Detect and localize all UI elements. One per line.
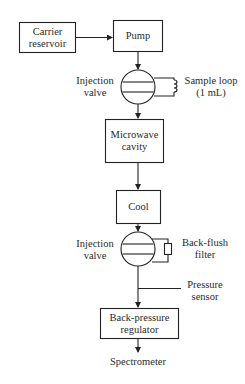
cool-node: Cool bbox=[117, 191, 160, 223]
sample-loop-icon bbox=[154, 78, 177, 96]
injection-valve-1-label: Injection valve bbox=[70, 75, 120, 99]
injection-valve-2-line1: Injection bbox=[70, 238, 120, 250]
injection-valve-1-line1: Injection bbox=[70, 75, 120, 87]
back-flush-filter-label: Back-flush filter bbox=[176, 237, 234, 261]
spectrometer-text: Spectrometer bbox=[110, 356, 166, 367]
injection-valve-2-label: Injection valve bbox=[70, 238, 120, 262]
sample-loop-label: Sample loop (1 mL) bbox=[180, 75, 242, 99]
bpr-label-1: Back-pressure bbox=[109, 312, 169, 324]
injection-valve-1-icon bbox=[121, 70, 155, 104]
microwave-cavity-node: Microwave cavity bbox=[106, 120, 163, 162]
sample-loop-line1: Sample loop bbox=[180, 75, 242, 87]
carrier-reservoir-node: Carrier reservoir bbox=[20, 23, 75, 52]
microwave-cavity-label-2: cavity bbox=[122, 141, 148, 153]
pressure-sensor-line2: sensor bbox=[180, 291, 230, 303]
bpr-label-2: regulator bbox=[121, 324, 159, 336]
back-pressure-regulator-node: Back-pressure regulator bbox=[101, 309, 178, 338]
injection-valve-1-line2: valve bbox=[70, 87, 120, 99]
back-flush-filter-line2: filter bbox=[176, 249, 234, 261]
microwave-cavity-label-1: Microwave bbox=[111, 129, 159, 141]
cool-label: Cool bbox=[128, 201, 148, 213]
back-flush-filter-line1: Back-flush bbox=[176, 237, 234, 249]
sample-loop-line2: (1 mL) bbox=[180, 87, 242, 99]
carrier-reservoir-label-2: reservoir bbox=[29, 38, 66, 50]
spectrometer-label: Spectrometer bbox=[98, 356, 178, 368]
injection-valve-2-line2: valve bbox=[70, 250, 120, 262]
pump-node: Pump bbox=[114, 21, 162, 51]
carrier-reservoir-label-1: Carrier bbox=[33, 26, 63, 38]
pressure-sensor-label: Pressure sensor bbox=[180, 279, 230, 303]
pressure-sensor-line1: Pressure bbox=[180, 279, 230, 291]
injection-valve-2-icon bbox=[121, 232, 155, 266]
pump-label: Pump bbox=[126, 30, 151, 42]
